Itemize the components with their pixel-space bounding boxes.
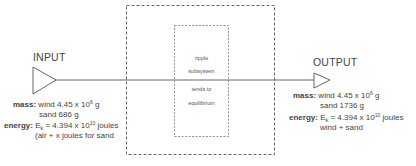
input-mass-line: mass: wind 4.45 x 106 g [13, 101, 99, 109]
subsystem-line-2: subsystem [174, 69, 229, 75]
diagram-canvas [0, 0, 416, 166]
input-mass-wind-unit: g [93, 100, 100, 109]
output-energy-unit: joules [380, 113, 403, 122]
input-mass-wind: wind 4.45 x 10 [38, 100, 90, 109]
output-energy-label: energy: [289, 113, 318, 122]
output-mass-wind-unit: g [373, 91, 380, 100]
input-mass-sand: sand 686 g [39, 111, 79, 119]
input-energy-note: (air + x joules for sand [35, 132, 114, 140]
output-mass-sand: sand 1736 g [320, 102, 364, 110]
input-title: INPUT [33, 52, 66, 63]
output-arrow-icon [314, 73, 330, 88]
input-energy-label: energy: [4, 121, 33, 130]
subsystem-line-1: ripple [174, 56, 229, 62]
input-mass-label: mass: [13, 100, 36, 109]
output-mass-wind: wind 4.45 x 10 [318, 91, 370, 100]
subsystem-line-4: equilibrium [174, 101, 229, 107]
output-mass-line: mass: wind 4.45 x 106 g [293, 92, 379, 100]
subsystem-line-3: tends to [174, 87, 229, 93]
output-mass-label: mass: [293, 91, 316, 100]
output-title: OUTPUT [313, 57, 357, 68]
ripple-subsystem-box [175, 26, 229, 137]
input-energy-unit: joules [95, 121, 118, 130]
input-energy-value: = 4.394 x 10 [43, 121, 89, 130]
input-energy-line: energy: Ek = 4.394 x 1010 joules [4, 122, 118, 130]
output-energy-note: wind + sand [320, 124, 363, 132]
output-energy-value: = 4.394 x 10 [328, 113, 374, 122]
output-energy-line: energy: Ek = 4.394 x 1010 joules [289, 114, 403, 122]
input-arrow-icon [33, 67, 56, 94]
